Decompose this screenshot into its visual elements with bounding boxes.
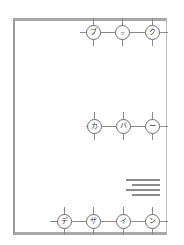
char-node: カ	[87, 119, 102, 134]
char-node: デ	[57, 214, 72, 229]
char-node: ッ	[115, 25, 130, 40]
char-node: ン	[145, 214, 160, 229]
char-node: イ	[116, 214, 131, 229]
char-node: バ	[116, 119, 131, 134]
char-node: ザ	[86, 214, 101, 229]
char-node: ブ	[86, 25, 101, 40]
char-node: ー	[145, 119, 160, 134]
char-node: ク	[145, 25, 160, 40]
